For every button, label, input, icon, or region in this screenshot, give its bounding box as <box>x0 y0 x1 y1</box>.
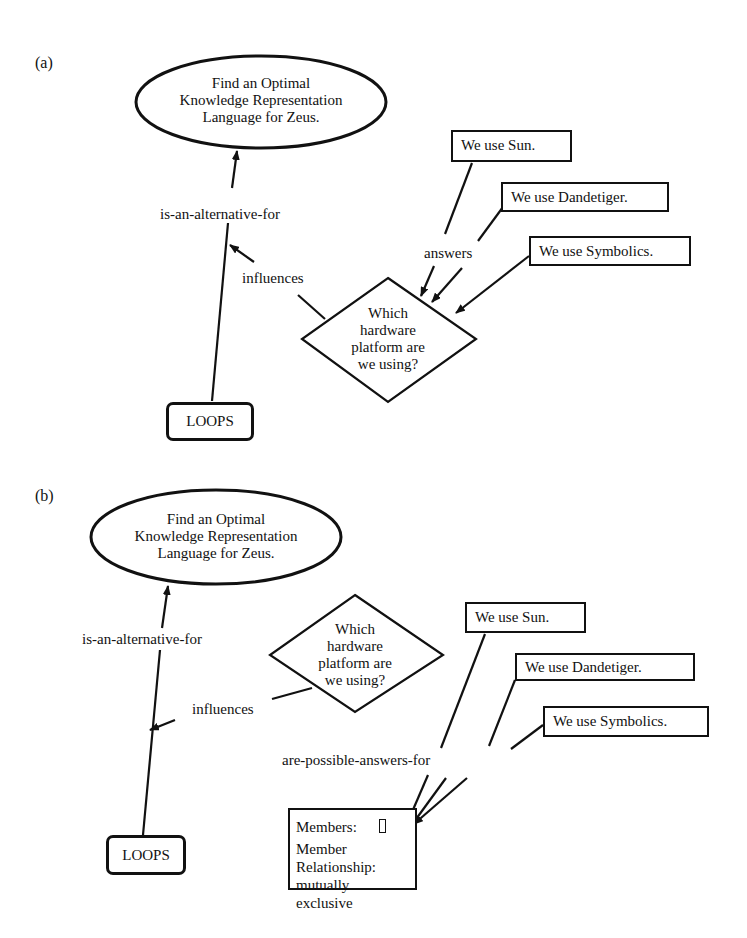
panel-label-b: (b) <box>35 487 54 505</box>
goal-line-1: Find an Optimal <box>96 511 336 528</box>
goal-line-3: Language for Zeus. <box>141 109 381 126</box>
member-relationship-value: mutually exclusive <box>296 876 409 912</box>
question-line-2: hardware <box>299 638 411 655</box>
question-node-a[interactable]: Which hardware platform are we using? <box>332 305 444 373</box>
members-label: Members: <box>296 819 357 835</box>
answer-dandetiger-b[interactable]: We use Dandetiger. <box>515 653 695 681</box>
answer-symbolics-b[interactable]: We use Symbolics. <box>543 706 709 737</box>
member-relationship-label: Member Relationship: <box>296 840 409 876</box>
goal-line-1: Find an Optimal <box>141 75 381 92</box>
members-row: Members: <box>296 818 409 836</box>
question-line-3: platform are <box>299 655 411 672</box>
member-set-node-b[interactable]: Members: Member Relationship: mutually e… <box>288 808 417 890</box>
edge-label-influences-b: influences <box>192 701 254 718</box>
loops-label-a: LOOPS <box>186 413 234 430</box>
members-slot[interactable] <box>379 819 386 833</box>
answer-symbolics-a[interactable]: We use Symbolics. <box>529 236 691 266</box>
goal-line-3: Language for Zeus. <box>96 545 336 562</box>
answer-dandetiger-a[interactable]: We use Dandetiger. <box>501 182 669 212</box>
edge-label-alternative-b: is-an-alternative-for <box>80 631 204 648</box>
goal-node-b[interactable]: Find an Optimal Knowledge Representation… <box>96 511 336 562</box>
diagram-edges <box>0 0 747 938</box>
edge-label-possible-answers-b: are-possible-answers-for <box>282 752 430 769</box>
question-line-4: we using? <box>332 356 444 373</box>
question-line-2: hardware <box>332 322 444 339</box>
goal-node-a[interactable]: Find an Optimal Knowledge Representation… <box>141 75 381 126</box>
question-line-3: platform are <box>332 339 444 356</box>
question-line-4: we using? <box>299 672 411 689</box>
question-node-b[interactable]: Which hardware platform are we using? <box>299 621 411 689</box>
loops-label-b: LOOPS <box>122 847 170 864</box>
goal-line-2: Knowledge Representation <box>141 92 381 109</box>
loops-node-a[interactable]: LOOPS <box>166 402 254 441</box>
panel-label-a: (a) <box>35 54 53 72</box>
edge-label-influences-a: influences <box>242 270 304 287</box>
edge-label-answers-a: answers <box>424 245 472 262</box>
answer-sun-b[interactable]: We use Sun. <box>465 602 586 633</box>
loops-node-b[interactable]: LOOPS <box>106 835 186 875</box>
edge-label-alternative-a: is-an-alternative-for <box>158 206 282 223</box>
answer-sun-a[interactable]: We use Sun. <box>451 130 572 162</box>
question-line-1: Which <box>332 305 444 322</box>
question-line-1: Which <box>299 621 411 638</box>
goal-line-2: Knowledge Representation <box>96 528 336 545</box>
